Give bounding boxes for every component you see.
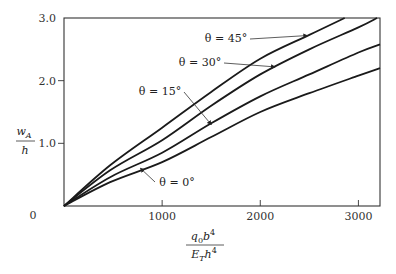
x-tick-label-2: 3000 — [344, 210, 372, 223]
series-lines — [64, 18, 380, 206]
series-line-theta-0 — [64, 68, 380, 206]
series-label-theta-45: θ = 45° — [205, 32, 247, 45]
x-axis-label-numerator: q0b4 — [191, 228, 215, 245]
y-axis-label-denominator: h — [21, 144, 28, 157]
leader-arrow-theta-0 — [141, 168, 155, 182]
x-axis-label-denominator: ETh4 — [190, 246, 217, 263]
series-line-theta-45 — [64, 18, 345, 206]
x-tick-label-0: 1000 — [148, 210, 176, 223]
series-label-theta-0: θ = 0° — [159, 176, 194, 189]
series-line-theta-30 — [64, 18, 377, 206]
y-axis-label-numerator: wA — [16, 125, 31, 140]
origin-label: 0 — [30, 209, 37, 222]
plot-area-border — [64, 18, 380, 206]
x-tick-label-1: 2000 — [246, 210, 274, 223]
series-label-theta-15: θ = 15° — [139, 85, 181, 98]
y-tick-label-0: 1.0 — [39, 137, 57, 150]
leader-arrow-theta-45 — [250, 36, 307, 39]
y-tick-label-2: 3.0 — [39, 12, 57, 25]
y-axis-label: wA h — [16, 125, 35, 157]
series-label-theta-30: θ = 30° — [179, 56, 221, 69]
y-tick-label-1: 2.0 — [39, 75, 57, 88]
series-annotations: θ = 45°θ = 30°θ = 15°θ = 0° — [139, 32, 308, 189]
plot-frame — [64, 18, 380, 206]
chart: 1000200030001.02.03.0 θ = 45°θ = 30°θ = … — [0, 0, 396, 274]
x-axis-label: q0b4 ETh4 — [186, 228, 224, 263]
